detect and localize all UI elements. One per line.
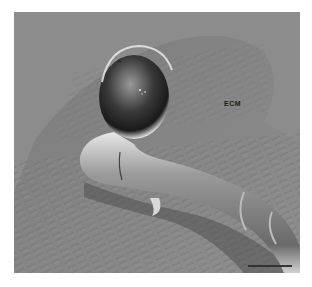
micrograph-illustration [14,12,300,273]
sem-micrograph: A ECM [14,12,300,273]
label-ecm: ECM [224,100,241,107]
scale-bar [248,265,292,267]
label-appressorium: A [117,58,122,64]
